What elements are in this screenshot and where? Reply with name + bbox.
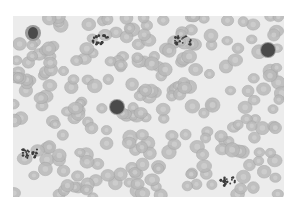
- red-blood-cell: [61, 179, 74, 191]
- red-blood-cell: [57, 165, 70, 176]
- red-blood-cell: [270, 173, 281, 182]
- red-blood-cell: [42, 42, 56, 56]
- red-blood-cell: [158, 63, 172, 76]
- red-blood-cell: [156, 103, 170, 115]
- red-blood-cell: [221, 16, 233, 26]
- red-blood-cell: [80, 43, 94, 55]
- red-blood-cell: [27, 40, 37, 50]
- red-blood-cell: [136, 142, 147, 153]
- red-blood-cell: [248, 95, 260, 105]
- red-blood-cell: [178, 82, 192, 94]
- red-blood-cell: [29, 171, 39, 179]
- red-blood-cell: [100, 137, 113, 149]
- red-blood-cell: [246, 121, 257, 131]
- red-blood-cell: [145, 174, 160, 186]
- red-blood-cell: [34, 92, 48, 103]
- red-blood-cell: [233, 120, 243, 129]
- red-blood-cell: [182, 181, 192, 191]
- red-blood-cell: [17, 152, 32, 164]
- red-blood-cell: [242, 85, 254, 96]
- red-blood-cell: [81, 185, 93, 195]
- red-blood-cell: [207, 180, 217, 190]
- red-blood-cell: [138, 29, 150, 41]
- red-blood-cell: [246, 35, 257, 44]
- red-blood-cell: [265, 148, 275, 157]
- red-blood-cell: [253, 156, 263, 165]
- red-blood-cell: [68, 75, 79, 85]
- red-blood-cell: [204, 69, 214, 78]
- red-blood-cell: [52, 149, 66, 162]
- red-blood-cell: [13, 188, 21, 197]
- red-blood-cell: [168, 139, 181, 150]
- red-blood-cell: [68, 102, 83, 114]
- monocyte: [109, 99, 125, 115]
- neutrophil: [25, 25, 41, 41]
- red-blood-cell: [273, 16, 283, 22]
- red-blood-cell: [196, 149, 208, 160]
- red-blood-cell: [136, 158, 149, 171]
- red-blood-cell: [38, 162, 52, 175]
- red-blood-cell: [204, 29, 218, 42]
- red-blood-cell: [257, 83, 271, 95]
- red-blood-cell: [101, 169, 115, 181]
- red-blood-cell: [238, 17, 248, 27]
- red-blood-cell: [134, 107, 147, 118]
- red-blood-cell: [182, 50, 197, 63]
- red-blood-cell: [43, 79, 57, 91]
- red-blood-cell: [102, 16, 113, 25]
- blood-smear-canvas: [13, 16, 284, 197]
- red-blood-cell: [257, 165, 271, 178]
- red-blood-cell: [57, 130, 68, 141]
- red-blood-cell: [205, 98, 220, 112]
- red-blood-cell: [269, 122, 281, 134]
- red-blood-cell: [228, 54, 243, 66]
- red-blood-cell: [114, 168, 128, 181]
- red-blood-cell: [145, 57, 159, 71]
- red-blood-cell: [44, 57, 57, 68]
- red-blood-cell: [82, 18, 96, 30]
- red-blood-cell: [71, 56, 83, 66]
- red-blood-cell: [80, 155, 94, 168]
- red-blood-cell: [139, 84, 151, 96]
- red-blood-cell: [97, 104, 107, 114]
- red-blood-cell: [186, 170, 197, 179]
- red-blood-cell: [236, 170, 250, 183]
- red-blood-cell: [71, 171, 83, 181]
- red-blood-cell: [13, 56, 22, 65]
- red-blood-cell: [87, 79, 102, 93]
- red-blood-cell: [58, 66, 68, 75]
- red-blood-cell: [254, 148, 265, 157]
- red-blood-cell: [200, 133, 210, 143]
- red-blood-cell: [157, 16, 169, 25]
- red-blood-cell: [225, 86, 235, 95]
- red-blood-cell: [122, 137, 136, 148]
- red-blood-cell: [163, 44, 177, 57]
- red-blood-cell: [247, 182, 259, 194]
- red-blood-cell: [197, 160, 212, 173]
- red-blood-cell: [131, 179, 144, 190]
- red-blood-cell: [235, 183, 247, 194]
- red-blood-cell: [101, 125, 111, 134]
- red-blood-cell: [215, 130, 227, 141]
- red-blood-cell: [136, 129, 149, 140]
- red-blood-cell: [153, 164, 164, 174]
- red-blood-cell: [75, 148, 86, 156]
- red-blood-cell: [103, 74, 113, 84]
- red-blood-cell: [191, 179, 202, 189]
- red-blood-cell: [180, 129, 191, 140]
- red-blood-cell: [189, 63, 203, 75]
- red-blood-cell: [232, 43, 244, 53]
- blood-smear-image: [13, 16, 284, 197]
- red-blood-cell: [126, 78, 139, 90]
- red-blood-cell: [27, 51, 38, 61]
- red-blood-cell: [268, 29, 280, 41]
- red-blood-cell: [13, 99, 19, 109]
- red-blood-cell: [248, 74, 259, 84]
- red-blood-cell: [199, 16, 210, 23]
- red-blood-cell: [272, 189, 283, 197]
- red-blood-cell: [248, 132, 260, 143]
- red-blood-cell: [185, 99, 200, 113]
- red-blood-cell: [222, 36, 233, 45]
- red-blood-cell: [13, 38, 26, 51]
- red-blood-cell: [225, 143, 240, 157]
